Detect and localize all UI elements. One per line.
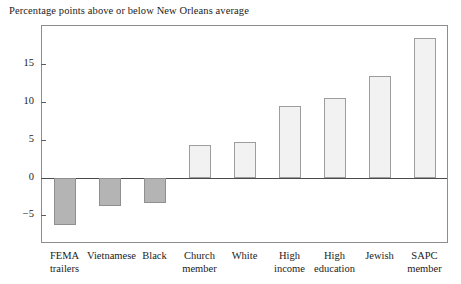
y-tick-label-wrap: 10 <box>0 96 34 108</box>
x-axis-label-line2: member <box>402 262 447 275</box>
x-axis-label-line1: SAPC <box>402 249 447 262</box>
bar <box>324 98 346 178</box>
plot-area <box>42 26 447 242</box>
y-tick-label: −5 <box>8 209 34 220</box>
x-axis-label: Jewish <box>357 249 402 262</box>
chart-root: Percentage points above or below New Orl… <box>0 0 461 284</box>
y-tick-label-wrap: 5 <box>0 134 34 146</box>
x-axis-label: Black <box>132 249 177 262</box>
x-axis-label: White <box>222 249 267 262</box>
x-axis-label: FEMAtrailers <box>42 249 87 275</box>
y-tick-label: 5 <box>8 134 34 145</box>
x-axis-label-line2: education <box>312 262 357 275</box>
chart-title: Percentage points above or below New Orl… <box>9 5 249 16</box>
bar <box>54 178 76 226</box>
x-axis-label-line2: income <box>267 262 312 275</box>
x-axis-label-line1: High <box>267 249 312 262</box>
y-tick-label: 0 <box>8 172 34 183</box>
x-axis-label-line2: member <box>177 262 222 275</box>
x-axis-label-line2: trailers <box>42 262 87 275</box>
y-tick-label: 15 <box>8 58 34 69</box>
x-axis-label: Churchmember <box>177 249 222 275</box>
x-axis-label: SAPCmember <box>402 249 447 275</box>
y-tick-label-wrap: 15 <box>0 58 34 70</box>
x-axis-label-line1: FEMA <box>42 249 87 262</box>
x-axis-label: Vietnamese <box>87 249 132 262</box>
bar <box>144 178 166 203</box>
bar <box>279 106 301 178</box>
x-axis-label-line1: Vietnamese <box>87 249 132 262</box>
bar <box>189 145 211 178</box>
y-tick-label-wrap: 0 <box>0 172 34 184</box>
x-axis-label: Higheducation <box>312 249 357 275</box>
y-tick-label-wrap: −5 <box>0 209 34 221</box>
x-axis-label-line1: Black <box>132 249 177 262</box>
x-axis-label-line1: White <box>222 249 267 262</box>
bar <box>369 76 391 178</box>
bar <box>414 38 436 177</box>
x-axis-label: Highincome <box>267 249 312 275</box>
x-axis-labels: FEMAtrailersVietnameseBlackChurchmemberW… <box>42 249 447 283</box>
y-tick-label: 10 <box>8 96 34 107</box>
x-axis-label-line1: Church <box>177 249 222 262</box>
bar <box>99 178 121 207</box>
x-axis-label-line1: Jewish <box>357 249 402 262</box>
x-axis-label-line1: High <box>312 249 357 262</box>
bar <box>234 142 256 178</box>
